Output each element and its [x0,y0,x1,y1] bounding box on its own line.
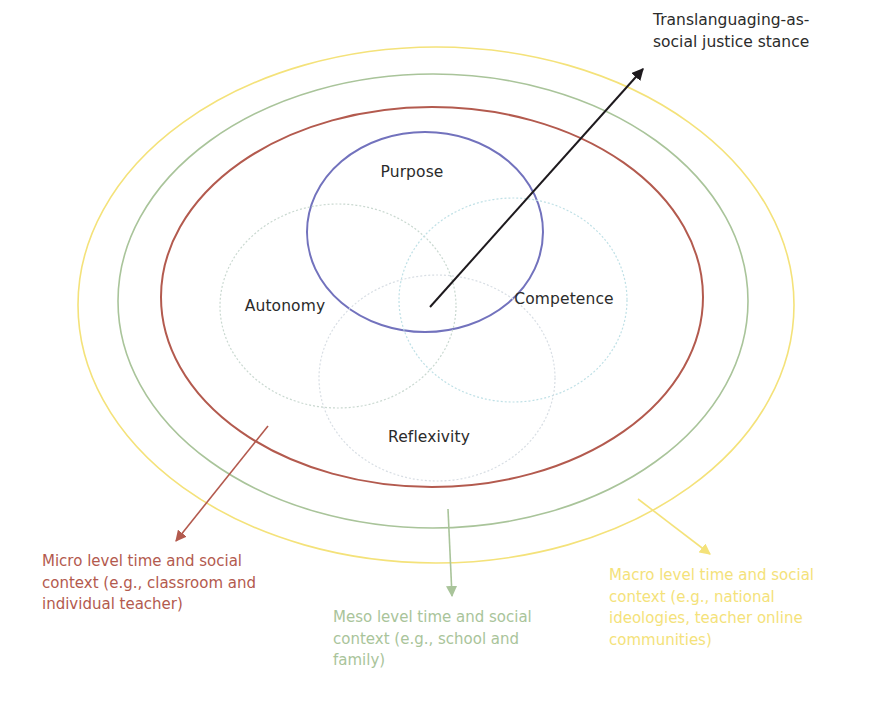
label-stance: Translanguaging-as- social justice stanc… [653,9,809,53]
arrow-macro [638,499,710,554]
label-micro-context: Micro level time and social context (e.g… [42,551,256,616]
ring-meso [118,74,748,528]
arrow-stance [430,69,643,307]
label-autonomy: Autonomy [245,297,325,315]
label-reflexivity: Reflexivity [388,428,470,446]
arrow-meso [448,509,452,596]
arrow-micro [176,426,268,541]
circle-purpose [307,132,543,332]
stance-arrow [430,69,643,307]
ring-macro [78,47,794,563]
label-meso-context: Meso level time and social context (e.g.… [333,607,532,672]
label-purpose: Purpose [381,163,444,181]
context-rings [78,47,794,563]
label-competence: Competence [514,290,613,308]
label-macro-context: Macro level time and social context (e.g… [609,565,814,651]
